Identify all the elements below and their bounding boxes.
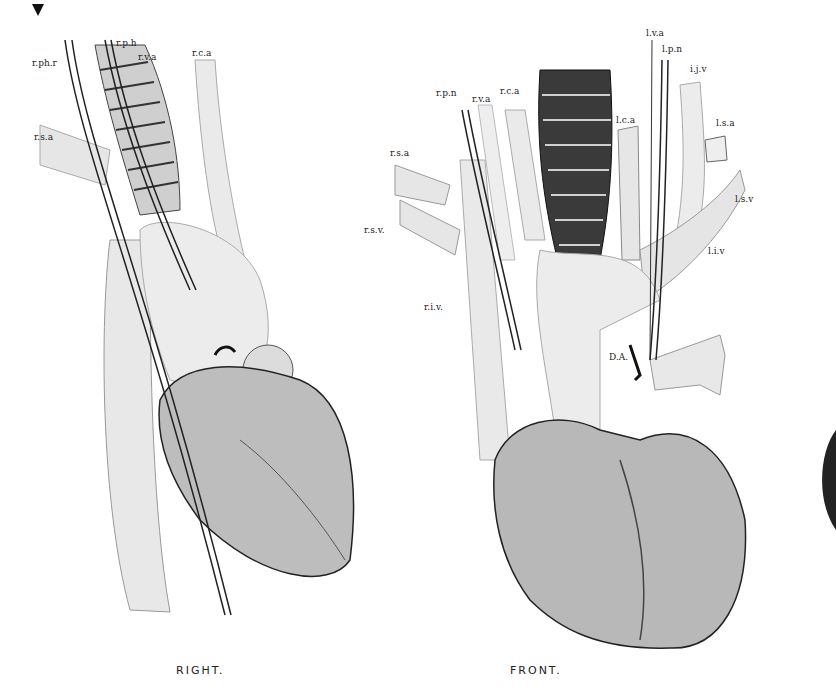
label-ductus-arteriosus: D.A.: [609, 352, 628, 362]
caption-front: FRONT.: [510, 664, 562, 677]
right-view-drawing: [40, 40, 353, 615]
label-r-p-n: r.p.n: [436, 88, 457, 98]
label-r-c-a-front: r.c.a: [500, 86, 519, 96]
label-r-s-a: r.s.a: [34, 132, 53, 142]
label-r-s-v: r.s.v.: [364, 225, 385, 235]
anatomical-illustration: [0, 0, 836, 690]
label-l-s-v: l.s.v: [735, 194, 753, 204]
label-l-c-a: l.c.a: [616, 115, 635, 125]
label-l-v-a: l.v.a: [646, 28, 664, 38]
front-view-drawing: [395, 40, 746, 648]
label-l-p-n: l.p.n: [662, 44, 682, 54]
label-i-j-v: i.j.v: [690, 64, 706, 74]
label-l-i-v: l.i.v: [708, 246, 725, 256]
label-r-v-a-front: r.v.a: [472, 94, 490, 104]
caption-right: RIGHT.: [176, 664, 225, 677]
label-r-ph-r: r.ph.r: [32, 58, 57, 68]
label-r-i-v: r.i.v.: [424, 302, 443, 312]
label-l-s-a: l.s.a: [716, 118, 735, 128]
label-r-c-a: r.c.a: [192, 48, 211, 58]
label-r-p-h: r.p.h: [116, 38, 137, 48]
label-r-s-a-front: r.s.a: [390, 148, 409, 158]
arrow-marker-icon: [32, 4, 44, 16]
cropped-figure-edge: [822, 430, 836, 530]
label-r-v-a: r.v.a: [138, 52, 156, 62]
